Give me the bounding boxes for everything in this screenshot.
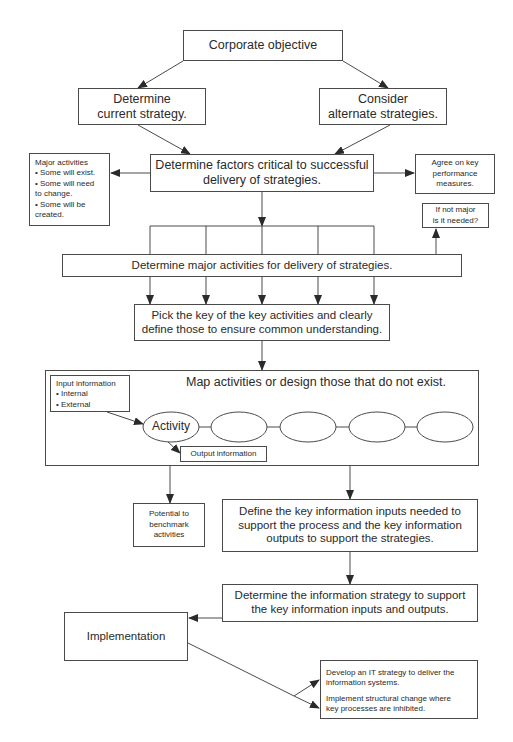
pick-key-activities-label: Pick the key of the key activities and c… (142, 309, 382, 337)
output-information-label: Output information (191, 449, 257, 459)
corporate-objective-box: Corporate objective (183, 30, 343, 61)
input-information-box: Input information • Internal • External (50, 375, 130, 412)
major-activities-note-box: Major activities • Some will exist. • So… (29, 153, 110, 226)
benchmark-box: Potential to benchmark activities (133, 503, 205, 547)
activity-ellipse: Activity (145, 419, 197, 433)
pick-key-activities-box: Pick the key of the key activities and c… (134, 304, 390, 341)
alternate-strategies-box: Consider alternate strategies. (319, 88, 447, 125)
implementation-label: Implementation (87, 630, 166, 644)
info-strategy-label: Determine the information strategy to su… (235, 589, 466, 617)
determine-major-activities-label: Determine major activities for delivery … (132, 259, 393, 273)
implementation-box: Implementation (64, 612, 188, 661)
input-information-label: Input information • Internal • External (56, 379, 116, 410)
benchmark-label: Potential to benchmark activities (149, 509, 189, 541)
critical-factors-label: Determine factors critical to successful… (155, 158, 368, 188)
define-key-info-box: Define the key information inputs needed… (222, 499, 478, 552)
define-key-info-label: Define the key information inputs needed… (238, 505, 462, 546)
structural-change-label: Implement structural change where key pr… (326, 694, 451, 715)
map-activities-title: Map activities or design those that do n… (186, 375, 446, 389)
major-activities-note-label: Major activities • Some will exist. • So… (35, 158, 95, 220)
outcomes-box: Develop an IT strategy to deliver the in… (320, 660, 478, 719)
it-strategy-label: Develop an IT strategy to deliver the in… (326, 668, 454, 689)
determine-major-activities-box: Determine major activities for delivery … (62, 254, 462, 277)
activity-label: Activity (152, 419, 190, 433)
performance-measures-box: Agree on key performance measures. (415, 154, 495, 194)
critical-factors-box: Determine factors critical to successful… (150, 154, 374, 192)
performance-measures-label: Agree on key performance measures. (431, 158, 478, 189)
output-information-box: Output information (180, 446, 267, 462)
alternate-strategies-label: Consider alternate strategies. (328, 92, 438, 122)
info-strategy-box: Determine the information strategy to su… (222, 584, 478, 622)
if-not-major-label: If not major is it needed? (433, 205, 478, 226)
current-strategy-box: Determine current strategy. (78, 88, 206, 125)
corporate-objective-label: Corporate objective (209, 38, 317, 53)
if-not-major-box: If not major is it needed? (422, 203, 489, 228)
current-strategy-label: Determine current strategy. (97, 92, 186, 122)
